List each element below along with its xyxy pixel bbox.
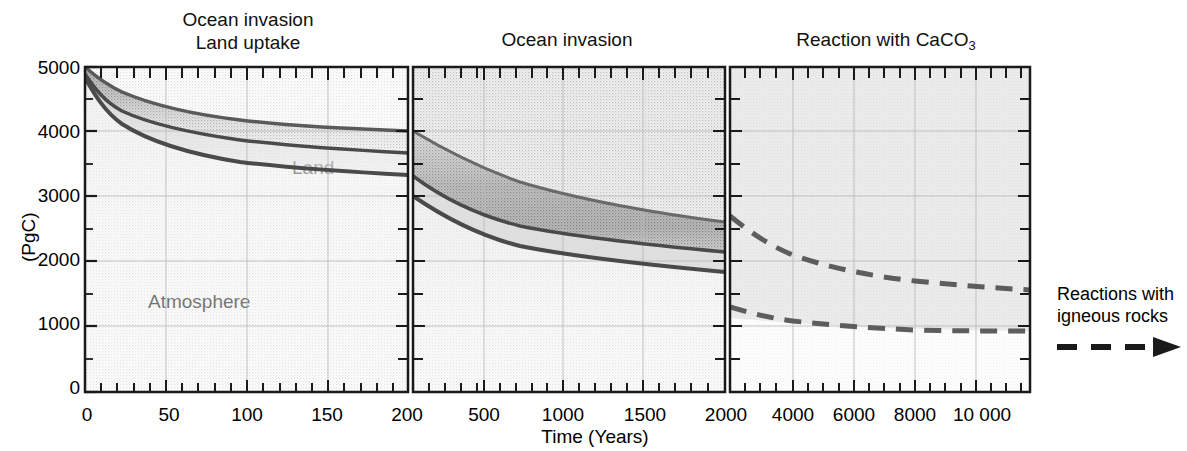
panel-2-plot xyxy=(413,67,725,392)
panel-3-plot xyxy=(730,67,1030,392)
carbon-cycle-figure: Ocean invasion Land uptake Ocean invasio… xyxy=(0,0,1187,451)
plot-area xyxy=(0,0,1187,451)
panel-1-plot xyxy=(85,67,408,392)
